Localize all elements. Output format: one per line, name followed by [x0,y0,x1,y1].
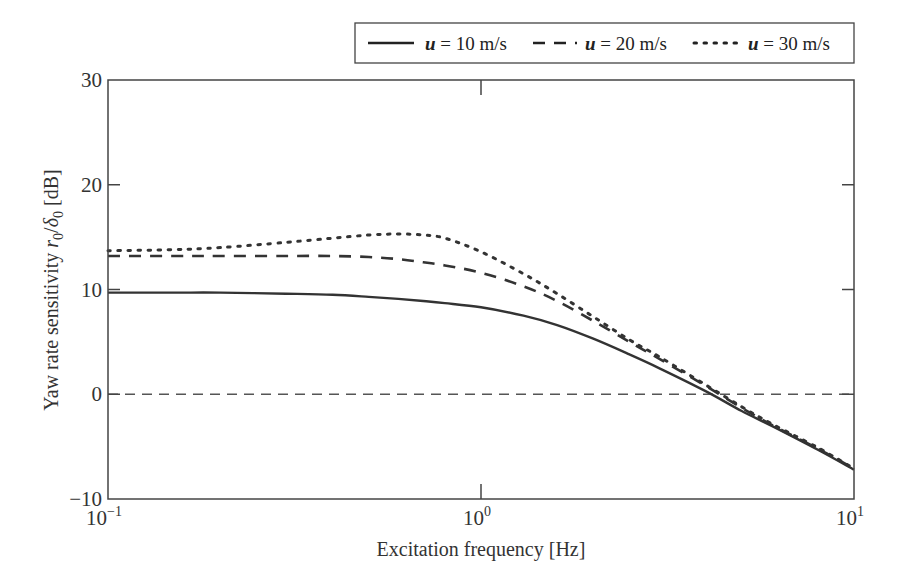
x-axis-title: Excitation frequency [Hz] [377,538,586,561]
series-layer [108,234,854,470]
legend-label: u = 30 m/s [748,33,830,54]
x-tick-label: 10−1 [86,504,122,530]
legend-label: u = 20 m/s [585,33,667,54]
plot-frame [108,80,854,499]
bode-magnitude-chart: u = 10 m/su = 20 m/su = 30 m/s −10010203… [0,0,899,588]
y-tick-label: 30 [81,68,102,92]
series-line-3 [108,234,854,469]
x-tick-label: 101 [836,504,864,530]
legend: u = 10 m/su = 20 m/su = 30 m/s [355,23,854,63]
axis-ticks: −10010203010−1100101 [69,68,864,530]
x-tick-label: 100 [463,504,491,530]
y-tick-label: 20 [81,173,102,197]
y-tick-label: 0 [92,382,103,406]
series-line-1 [108,293,854,470]
series-line-2 [108,256,854,469]
y-axis-title: Yaw rate sensitivity r0/δ0 [dB] [40,169,66,410]
legend-label: u = 10 m/s [425,33,507,54]
y-tick-label: 10 [81,278,102,302]
